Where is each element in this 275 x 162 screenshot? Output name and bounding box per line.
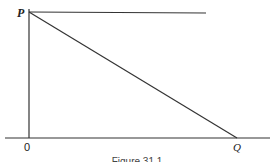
diagonal-line-p-to-q: [29, 12, 237, 138]
label-p: P: [17, 6, 25, 20]
figure-caption: Figure 31.1: [112, 156, 163, 162]
label-origin: 0: [24, 141, 30, 153]
diagram: P Q 0 Figure 31.1: [0, 0, 275, 162]
horizontal-line-from-p: [29, 12, 206, 13]
label-q: Q: [233, 141, 241, 153]
